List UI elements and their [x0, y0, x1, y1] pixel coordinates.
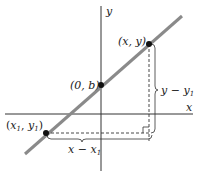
label-x-minus-x1: x − x1: [68, 143, 101, 157]
y-axis-label: y: [105, 5, 113, 18]
vertical-brace: [151, 44, 158, 133]
horizontal-brace: [47, 135, 152, 142]
x-axis-label: x: [186, 101, 193, 114]
line-diagram: y x (x, y) (0, b) (x1, y1) y − y1 x − x1: [0, 0, 204, 178]
label-x-y: (x, y): [118, 35, 146, 48]
label-y-minus-y1: y − y1: [160, 84, 194, 98]
label-x1-y1: (x1, y1): [6, 119, 43, 133]
point-x1-y1: [43, 130, 49, 136]
right-angle-marker: [143, 127, 149, 133]
point-x-y: [146, 41, 152, 47]
label-y-intercept: (0, b): [70, 79, 100, 92]
